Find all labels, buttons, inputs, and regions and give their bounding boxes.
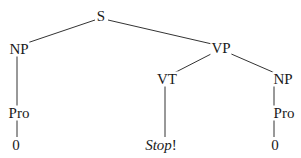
syntax-tree: S NP VP Pro 0 VT NP Stop! Pro 0	[0, 0, 301, 158]
node-zero-object: 0	[270, 138, 280, 153]
node-vt: VT	[156, 72, 178, 87]
tree-edges	[0, 0, 301, 158]
node-np-object: NP	[272, 72, 293, 87]
edge-s-vp	[108, 20, 212, 44]
node-zero-subject: 0	[11, 138, 21, 153]
node-stop-punct: !	[172, 137, 177, 153]
node-vp: VP	[210, 41, 231, 56]
node-stop-word: Stop	[145, 137, 172, 153]
node-np-subject: NP	[8, 42, 29, 57]
node-pro-subject: Pro	[8, 106, 31, 121]
node-stop: Stop!	[144, 138, 178, 153]
edge-s-np	[27, 20, 95, 43]
edge-vp-np	[229, 53, 275, 73]
node-s: S	[96, 9, 106, 24]
edge-vp-vt	[174, 53, 213, 73]
node-pro-object: Pro	[273, 106, 296, 121]
